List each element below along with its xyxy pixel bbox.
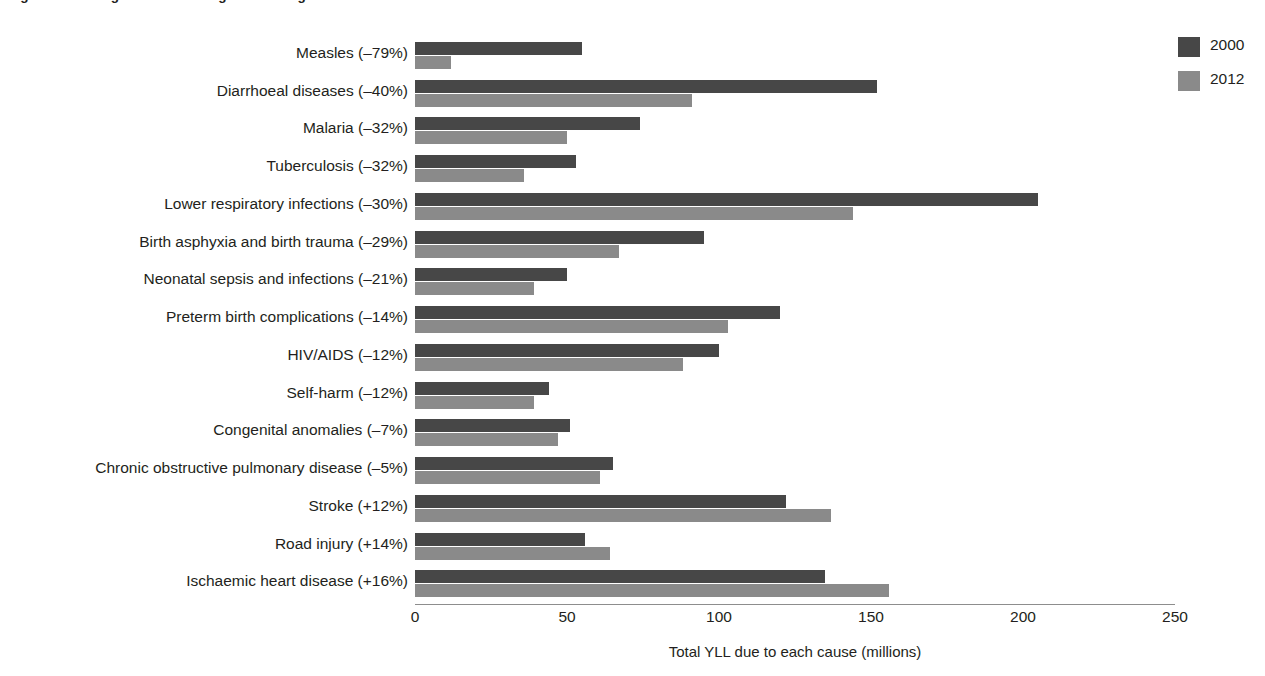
bar-2000 xyxy=(415,533,585,546)
legend-label-2000: 2000 xyxy=(1210,36,1244,54)
x-axis-line xyxy=(415,604,1175,605)
chart-row: Road injury (+14%) xyxy=(415,529,1175,567)
bar-2000 xyxy=(415,193,1038,206)
bar-2000 xyxy=(415,570,825,583)
x-tick-label: 50 xyxy=(558,608,575,626)
chart-row: Neonatal sepsis and infections (–21%) xyxy=(415,264,1175,302)
bar-2012 xyxy=(415,584,889,597)
category-label: Malaria (–32%) xyxy=(303,117,408,139)
bar-2000 xyxy=(415,419,570,432)
category-label: Chronic obstructive pulmonary disease (–… xyxy=(95,457,408,479)
bar-2012 xyxy=(415,509,831,522)
x-tick-label: 100 xyxy=(706,608,732,626)
bar-2012 xyxy=(415,94,692,107)
bar-2012 xyxy=(415,245,619,258)
figure-caption: Figure 2.3 Changes in the leading causes… xyxy=(8,0,522,3)
x-tick-label: 250 xyxy=(1162,608,1188,626)
category-label: Ischaemic heart disease (+16%) xyxy=(186,570,408,592)
bar-2012 xyxy=(415,471,600,484)
legend-swatch-2012 xyxy=(1178,71,1200,91)
plot-area: Measles (–79%)Diarrhoeal diseases (–40%)… xyxy=(415,38,1175,604)
category-label: Stroke (+12%) xyxy=(308,495,408,517)
chart-row: Malaria (–32%) xyxy=(415,113,1175,151)
legend-swatch-2000 xyxy=(1178,37,1200,57)
bar-2012 xyxy=(415,320,728,333)
chart-row: Chronic obstructive pulmonary disease (–… xyxy=(415,453,1175,491)
category-label: Tuberculosis (–32%) xyxy=(266,155,408,177)
category-label: Diarrhoeal diseases (–40%) xyxy=(217,80,408,102)
chart-row: Diarrhoeal diseases (–40%) xyxy=(415,76,1175,114)
chart-row: Measles (–79%) xyxy=(415,38,1175,76)
bar-2012 xyxy=(415,56,451,69)
figure-container: Figure 2.3 Changes in the leading causes… xyxy=(0,0,1265,676)
chart-row: Lower respiratory infections (–30%) xyxy=(415,189,1175,227)
bar-2012 xyxy=(415,169,524,182)
bar-2012 xyxy=(415,131,567,144)
x-tick-label: 200 xyxy=(1010,608,1036,626)
bar-2012 xyxy=(415,207,853,220)
figure-caption-strip: Figure 2.3 Changes in the leading causes… xyxy=(0,0,1265,9)
bar-2000 xyxy=(415,80,877,93)
chart-row: Preterm birth complications (–14%) xyxy=(415,302,1175,340)
bar-2012 xyxy=(415,396,534,409)
bar-2012 xyxy=(415,358,683,371)
bar-2000 xyxy=(415,495,786,508)
legend-label-2012: 2012 xyxy=(1210,70,1244,88)
chart-row: Self-harm (–12%) xyxy=(415,378,1175,416)
category-label: Congenital anomalies (–7%) xyxy=(213,419,408,441)
chart-row: Birth asphyxia and birth trauma (–29%) xyxy=(415,227,1175,265)
bar-2000 xyxy=(415,306,780,319)
chart-row: Tuberculosis (–32%) xyxy=(415,151,1175,189)
bar-2012 xyxy=(415,282,534,295)
bar-2000 xyxy=(415,457,613,470)
category-label: Measles (–79%) xyxy=(296,42,408,64)
x-tick-label: 0 xyxy=(411,608,420,626)
chart-row: Congenital anomalies (–7%) xyxy=(415,415,1175,453)
bar-2000 xyxy=(415,268,567,281)
bar-2000 xyxy=(415,42,582,55)
bar-2000 xyxy=(415,344,719,357)
category-label: Road injury (+14%) xyxy=(275,533,408,555)
bar-2000 xyxy=(415,117,640,130)
category-label: Lower respiratory infections (–30%) xyxy=(164,193,408,215)
bar-2000 xyxy=(415,155,576,168)
bar-2012 xyxy=(415,547,610,560)
category-label: HIV/AIDS (–12%) xyxy=(287,344,408,366)
x-tick-label: 150 xyxy=(858,608,884,626)
bar-2012 xyxy=(415,433,558,446)
chart-row: Stroke (+12%) xyxy=(415,491,1175,529)
category-label: Neonatal sepsis and infections (–21%) xyxy=(143,268,408,290)
chart-row: HIV/AIDS (–12%) xyxy=(415,340,1175,378)
bar-2000 xyxy=(415,231,704,244)
chart-row: Ischaemic heart disease (+16%) xyxy=(415,566,1175,604)
x-axis-title: Total YLL due to each cause (millions) xyxy=(415,643,1175,660)
category-label: Self-harm (–12%) xyxy=(287,382,408,404)
category-label: Preterm birth complications (–14%) xyxy=(166,306,408,328)
category-label: Birth asphyxia and birth trauma (–29%) xyxy=(139,231,408,253)
bar-2000 xyxy=(415,382,549,395)
